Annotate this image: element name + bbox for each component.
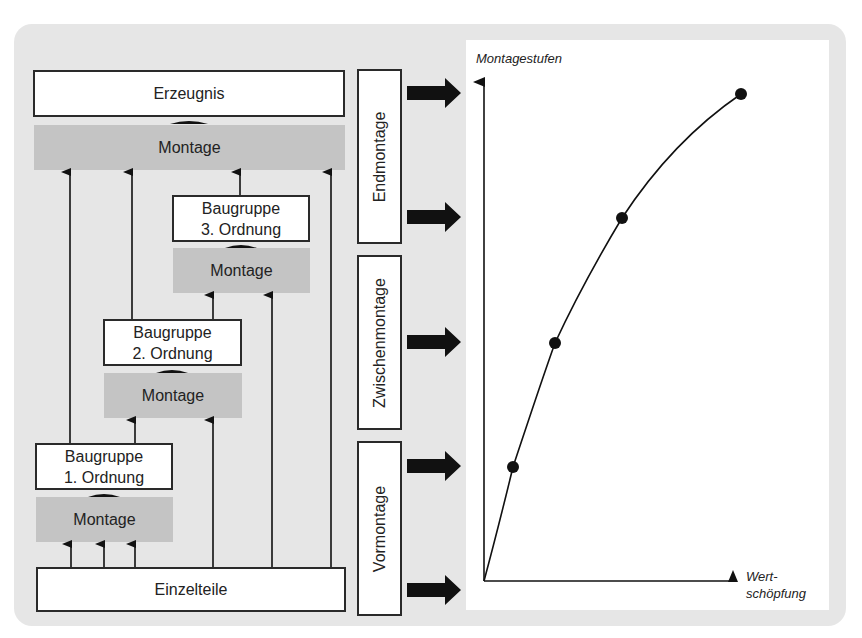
x-axis-label: Wert- schöpfung bbox=[746, 568, 806, 602]
montage-3-label: Montage bbox=[210, 262, 272, 280]
chart-panel bbox=[466, 40, 829, 610]
erzeugnis-label: Erzeugnis bbox=[153, 83, 224, 104]
y-axis-label: Montagestufen bbox=[476, 50, 562, 67]
montage-1-label: Montage bbox=[73, 511, 135, 529]
montage-3: Montage bbox=[173, 248, 310, 293]
stage-vormontage-label: Vormontage bbox=[371, 485, 389, 571]
big-arrow-right-icon bbox=[407, 78, 461, 108]
montage-2-label: Montage bbox=[142, 387, 204, 405]
baugruppe-1-box: Baugruppe 1. Ordnung bbox=[35, 443, 173, 490]
stage-zwischenmontage-label: Zwischenmontage bbox=[371, 278, 389, 408]
stage-vormontage: Vormontage bbox=[357, 441, 402, 616]
big-arrow-right-icon bbox=[407, 451, 461, 481]
einzelteile-box: Einzelteile bbox=[36, 567, 346, 612]
baugruppe-1-label: Baugruppe 1. Ordnung bbox=[64, 446, 144, 488]
big-arrow-right-icon bbox=[407, 202, 461, 232]
stage-endmontage: Endmontage bbox=[357, 69, 402, 244]
montage-1: Montage bbox=[36, 497, 173, 542]
stage-zwischenmontage: Zwischenmontage bbox=[357, 255, 402, 430]
baugruppe-3-box: Baugruppe 3. Ordnung bbox=[172, 195, 310, 242]
montage-2: Montage bbox=[104, 373, 242, 418]
einzelteile-label: Einzelteile bbox=[155, 579, 228, 600]
erzeugnis-box: Erzeugnis bbox=[33, 70, 345, 117]
baugruppe-3-label: Baugruppe 3. Ordnung bbox=[201, 198, 281, 240]
montage-final-label: Montage bbox=[158, 139, 220, 157]
montage-final: Montage bbox=[34, 125, 345, 170]
big-arrow-right-icon bbox=[407, 575, 461, 605]
baugruppe-2-label: Baugruppe 2. Ordnung bbox=[132, 322, 212, 364]
big-arrow-right-icon bbox=[407, 327, 461, 357]
baugruppe-2-box: Baugruppe 2. Ordnung bbox=[103, 319, 242, 366]
stage-endmontage-label: Endmontage bbox=[371, 111, 389, 202]
